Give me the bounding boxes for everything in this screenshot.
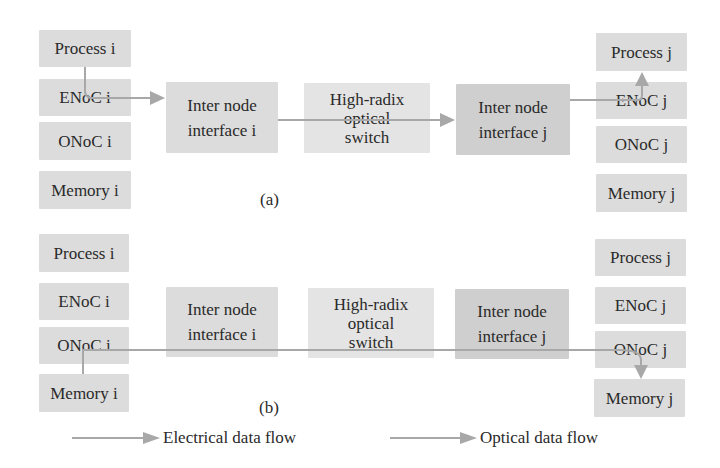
box-label-line: interface i [188, 325, 256, 344]
legend-electrical-arrowhead [143, 432, 160, 444]
box-inter-node-interface-j-b: Inter node interface j [455, 289, 569, 359]
box-memory-i-a: Memory i [39, 171, 131, 209]
box-label: ONoC j [615, 135, 668, 154]
box-label-line: Inter node [477, 302, 546, 321]
box-inter-node-interface-j-a: Inter node interface j [456, 84, 570, 155]
box-enoc-j-a: ENoC j [596, 82, 687, 119]
subfigure-label-b: (b) [259, 398, 279, 418]
box-high-radix-optical-switch-b: High-radix optical switch [308, 288, 434, 358]
box-label: ENoC i [59, 88, 110, 107]
box-process-i-b: Process i [39, 234, 129, 272]
box-label: Process j [610, 248, 671, 267]
box-process-i-a: Process i [39, 30, 131, 67]
box-label: Process j [611, 43, 672, 62]
box-high-radix-optical-switch-a: High-radix optical switch [304, 83, 430, 153]
legend-optical-label: Optical data flow [480, 428, 598, 448]
box-label: Memory j [608, 184, 676, 203]
box-label-line: High-radix [330, 90, 405, 109]
box-label-line: Inter node [187, 96, 256, 115]
box-inter-node-interface-i-b: Inter node interface i [166, 287, 278, 357]
arrowhead-a-2 [440, 113, 455, 127]
box-label: ONoC i [58, 132, 111, 151]
box-process-j-a: Process j [596, 33, 687, 71]
box-process-j-b: Process j [595, 239, 686, 276]
box-label-line: switch [349, 333, 393, 352]
box-label-line: switch [345, 128, 389, 147]
arrowhead-a-1 [150, 91, 165, 105]
box-label: Process i [55, 39, 116, 58]
box-onoc-i-a: ONoC i [39, 122, 131, 160]
box-label-line: interface i [188, 121, 256, 140]
box-memory-j-b: Memory j [594, 379, 685, 417]
box-label-line: Inter node [478, 98, 547, 117]
box-label: ENoC i [58, 292, 109, 311]
box-enoc-j-b: ENoC j [595, 287, 686, 324]
box-label-line: interface j [479, 123, 547, 142]
box-label: Memory i [51, 181, 119, 200]
legend-electrical-label: Electrical data flow [163, 428, 296, 448]
box-label: ONoC j [614, 340, 667, 359]
box-label: ONoC i [57, 336, 110, 355]
box-label: ENoC j [616, 91, 667, 110]
box-label: ENoC j [615, 296, 666, 315]
box-memory-i-b: Memory i [39, 374, 129, 412]
box-label: Memory i [50, 384, 118, 403]
legend-optical-arrowhead [460, 432, 477, 444]
box-onoc-j-b: ONoC j [595, 331, 686, 368]
box-inter-node-interface-i-a: Inter node interface i [166, 82, 278, 153]
box-enoc-i-a: ENoC i [39, 79, 131, 116]
box-label-line: High-radix [334, 295, 409, 314]
box-enoc-i-b: ENoC i [39, 283, 129, 320]
box-label-line: interface j [478, 327, 546, 346]
box-label: Process i [54, 244, 115, 263]
box-label: Memory j [606, 389, 674, 408]
box-label-line: Inter node [187, 300, 256, 319]
box-label-line: optical [344, 109, 390, 128]
box-onoc-i-b: ONoC i [39, 327, 129, 364]
subfigure-label-a: (a) [260, 190, 279, 210]
box-memory-j-a: Memory j [596, 174, 687, 212]
box-onoc-j-a: ONoC j [596, 126, 687, 163]
box-label-line: optical [348, 314, 394, 333]
